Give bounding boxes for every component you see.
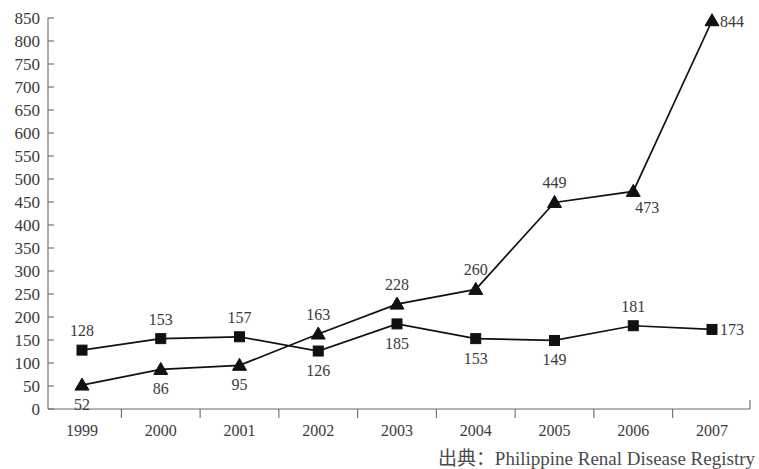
y-tick-label: 150 [15,331,41,350]
data-point-value-label: 163 [306,306,330,323]
y-tick-label: 550 [15,147,41,166]
data-point-marker [705,14,719,26]
data-point-marker [550,335,560,345]
x-tick-label: 2006 [617,422,649,439]
data-point-marker [471,334,481,344]
y-axis: 0501001502002503003504004505005506006507… [15,9,55,419]
x-tick-label: 2004 [460,422,492,439]
data-point-marker [628,321,638,331]
series-line-triangle [82,21,712,385]
y-tick-label: 100 [15,354,41,373]
series-lines [75,14,719,390]
y-tick-label: 250 [15,285,41,304]
y-tick-label: 500 [15,170,41,189]
y-tick-label: 650 [15,101,41,120]
data-point-value-label: 153 [149,311,173,328]
y-tick-label: 350 [15,239,41,258]
data-point-value-label: 473 [635,199,659,216]
data-point-marker [156,334,166,344]
data-point-value-label: 844 [720,13,744,30]
data-point-marker [313,346,323,356]
y-tick-label: 0 [32,400,41,419]
x-tick-label: 2005 [539,422,571,439]
data-point-value-label: 157 [228,309,252,326]
x-tick-label: 2007 [696,422,728,439]
data-point-marker [77,345,87,355]
data-point-value-label: 260 [464,261,488,278]
data-point-marker [707,324,717,334]
x-tick-label: 2000 [145,422,177,439]
y-tick-label: 50 [23,377,40,396]
x-tick-label: 2003 [381,422,413,439]
y-tick-label: 800 [15,32,41,51]
y-tick-label: 450 [15,193,41,212]
data-point-value-label: 52 [74,396,90,413]
data-point-value-label: 228 [385,276,409,293]
y-tick-label: 300 [15,262,41,281]
source-note: 出典：Philippine Renal Disease Registry [438,443,755,469]
x-tick-label: 2002 [302,422,334,439]
y-tick-label: 700 [15,78,41,97]
data-point-value-label: 181 [621,298,645,315]
data-point-value-label: 128 [70,322,94,339]
y-tick-label: 600 [15,124,41,143]
x-tick-label: 1999 [66,422,98,439]
data-point-value-label: 86 [153,380,169,397]
y-tick-label: 750 [15,55,41,74]
x-axis: 199920002001200220032004200520062007 [48,400,750,439]
data-point-value-label: 449 [543,174,567,191]
data-point-value-label: 153 [464,350,488,367]
x-tick-label: 2001 [224,422,256,439]
data-point-value-label: 173 [720,321,744,338]
data-point-marker [235,332,245,342]
y-tick-label: 400 [15,216,41,235]
data-point-value-label: 95 [232,376,248,393]
y-tick-label: 200 [15,308,41,327]
data-point-value-label: 149 [543,351,567,368]
data-point-labels: 1281531571261851531491811735286951632282… [70,13,744,413]
chart-container: 0501001502002503003504004505005506006507… [0,0,759,469]
data-point-marker [392,319,402,329]
line-chart-plot: 0501001502002503003504004505005506006507… [0,0,759,469]
y-tick-label: 850 [15,9,41,28]
data-point-marker [626,184,640,196]
data-point-marker [233,358,247,370]
data-point-value-label: 185 [385,335,409,352]
data-point-value-label: 126 [306,362,330,379]
